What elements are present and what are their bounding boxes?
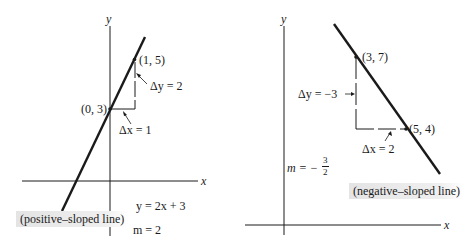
right-slope-prefix: m = −	[287, 162, 318, 174]
right-x-axis-label: x	[444, 219, 449, 231]
right-point-a-label: (3, 7)	[362, 51, 388, 63]
left-caption: (positive–sloped line)	[16, 211, 128, 227]
left-point-b-label: (1, 5)	[139, 54, 165, 66]
right-point-a-dot	[354, 55, 358, 59]
left-x-axis-label: x	[201, 175, 206, 187]
left-y-axis-label: y	[106, 13, 111, 25]
right-slope-numerator: 3	[322, 156, 329, 167]
right-point-b-label: (5, 4)	[409, 123, 435, 135]
right-delta-x-label: Δx = 2	[362, 143, 394, 155]
left-point-b-dot	[133, 58, 137, 62]
right-slope-denominator: 2	[322, 167, 329, 177]
left-delta-x-arrowhead	[123, 111, 127, 116]
left-slope: m = 2	[133, 224, 161, 236]
left-equation: y = 2x + 3	[136, 200, 186, 212]
left-point-a-dot	[108, 107, 112, 111]
right-delta-y-label: Δy = −3	[298, 88, 337, 100]
right-y-axis-label: y	[281, 13, 286, 25]
right-delta-y-arrowhead	[351, 92, 355, 96]
left-point-a-label: (0, 3)	[81, 103, 107, 115]
left-delta-y-label: Δy = 2	[150, 80, 182, 92]
right-slope-fraction: 3 2	[322, 156, 329, 177]
right-point-b-dot	[404, 127, 408, 131]
left-delta-x-label: Δx = 1	[119, 124, 151, 136]
right-caption: (negative–sloped line)	[349, 183, 464, 199]
